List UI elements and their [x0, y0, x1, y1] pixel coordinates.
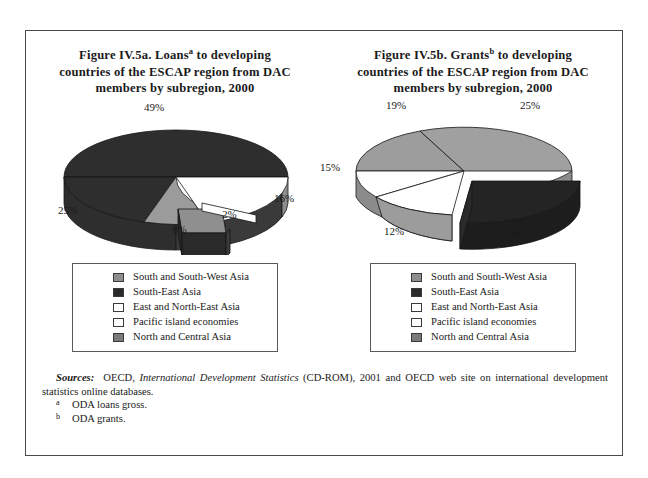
legend-label-north-and-central-asia-grants: North and Central Asia [431, 331, 529, 343]
panel-grants-title-line1-rest: to developing [494, 48, 572, 62]
sources-text-italic: International Development Statistics [139, 372, 298, 383]
footnote-a-marker: a [56, 396, 60, 410]
legend-swatch-south-east-asia-grants [411, 288, 422, 297]
legend-item-south-east-asia[interactable]: South-East Asia [73, 285, 277, 300]
pie-loans-label-2: 2% [222, 208, 237, 220]
panels-row: Figure IV.5a. Loansa to developing count… [26, 31, 622, 352]
pie-loans-label-16: 16% [274, 192, 294, 204]
footnote-b-marker: b [56, 410, 60, 424]
legend-item-east-and-north-east-asia[interactable]: East and North-East Asia [73, 300, 277, 315]
figure-frame: Figure IV.5a. Loansa to developing count… [25, 30, 623, 456]
legend-item-pacific-island-economies-grants[interactable]: Pacific island economies [371, 315, 575, 330]
legend-swatch-south-and-south-west-asia-grants [411, 273, 422, 282]
legend-swatch-east-and-north-east-asia [113, 303, 124, 312]
legend-swatch-pacific-island-economies [113, 318, 124, 327]
pie-loans-label-49: 49% [144, 101, 164, 113]
legend-label-north-and-central-asia: North and Central Asia [133, 331, 231, 343]
legend-label-east-and-north-east-asia-grants: East and North-East Asia [431, 301, 538, 313]
legend-swatch-north-and-central-asia [113, 333, 124, 342]
legend-label-pacific-island-economies: Pacific island economies [133, 316, 238, 328]
panel-grants-title-line2: countries of the ESCAP region from DAC [357, 65, 589, 79]
sources-text-a: OECD, [103, 372, 139, 383]
footnote-b: b ODA grants. [42, 412, 608, 426]
pie-loans-label-8: 8% [172, 223, 187, 235]
legend-label-south-east-asia-grants: South-East Asia [431, 286, 499, 298]
pie-chart-loans: 49% 16% 2% 8% 25% [26, 105, 324, 255]
footnote-a-text: ODA loans gross. [72, 399, 147, 410]
legend-item-north-and-central-asia-grants[interactable]: North and Central Asia [371, 330, 575, 345]
panel-grants-title: Figure IV.5b. Grantsb to developing coun… [324, 47, 622, 97]
legend-swatch-south-and-south-west-asia [113, 273, 124, 282]
legend-swatch-south-east-asia [113, 288, 124, 297]
pie-chart-grants: 25% 29% 12% 15% 19% [324, 105, 622, 255]
footnote-a: a ODA loans gross. [42, 398, 608, 412]
legend-label-south-east-asia: South-East Asia [133, 286, 201, 298]
legend-item-east-and-north-east-asia-grants[interactable]: East and North-East Asia [371, 300, 575, 315]
legend-item-south-and-south-west-asia[interactable]: South and South-West Asia [73, 270, 277, 285]
sources-label: Sources: [56, 372, 94, 383]
panel-loans-title: Figure IV.5a. Loansa to developing count… [26, 47, 324, 97]
legend-label-pacific-island-economies-grants: Pacific island economies [431, 316, 536, 328]
panel-loans: Figure IV.5a. Loansa to developing count… [26, 31, 324, 352]
legend-swatch-pacific-island-economies-grants [411, 318, 422, 327]
pie-grants-label-25: 25% [520, 99, 540, 111]
pie-loans-label-25: 25% [58, 204, 78, 216]
panel-loans-title-line1-rest: to developing [193, 48, 271, 62]
panel-loans-title-line3: members by subregion, 2000 [96, 81, 255, 95]
legend-label-south-and-south-west-asia-grants: South and South-West Asia [431, 271, 547, 283]
panel-grants-title-line1: Figure IV.5b. Grants [374, 48, 490, 62]
slice-top-north-central-asia [64, 130, 288, 177]
pie-grants-label-15: 15% [320, 161, 340, 173]
legend-swatch-north-and-central-asia-grants [411, 333, 422, 342]
pie-grants-svg [324, 105, 623, 255]
legend-item-north-and-central-asia[interactable]: North and Central Asia [73, 330, 277, 345]
panel-grants: Figure IV.5b. Grantsb to developing coun… [324, 31, 622, 352]
legend-swatch-east-and-north-east-asia-grants [411, 303, 422, 312]
figure-notes: Sources: OECD, International Development… [26, 371, 622, 426]
footnote-b-text: ODA grants. [72, 413, 126, 424]
sources-note: Sources: OECD, International Development… [42, 371, 608, 398]
pie-grants-label-19: 19% [386, 99, 406, 111]
legend-grants: South and South-West Asia South-East Asi… [370, 263, 576, 352]
legend-item-south-east-asia-grants[interactable]: South-East Asia [371, 285, 575, 300]
legend-item-pacific-island-economies[interactable]: Pacific island economies [73, 315, 277, 330]
pie-grants-label-12: 12% [384, 225, 404, 237]
legend-label-east-and-north-east-asia: East and North-East Asia [133, 301, 240, 313]
legend-item-south-and-south-west-asia-grants[interactable]: South and South-West Asia [371, 270, 575, 285]
panel-loans-title-line2: countries of the ESCAP region from DAC [59, 65, 291, 79]
pie-grants-label-29: 29% [506, 228, 526, 240]
legend-label-south-and-south-west-asia: South and South-West Asia [133, 271, 249, 283]
panel-loans-title-line1: Figure IV.5a. Loans [79, 48, 189, 62]
panel-grants-title-line3: members by subregion, 2000 [394, 81, 553, 95]
legend-loans: South and South-West Asia South-East Asi… [72, 263, 278, 352]
